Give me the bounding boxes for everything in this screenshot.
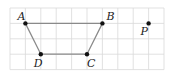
label-c: C	[87, 57, 96, 70]
point-c	[85, 52, 89, 56]
point-b	[100, 21, 104, 25]
label-a: A	[16, 10, 25, 23]
label-p: P	[140, 25, 149, 38]
geometry-diagram: A B C D P	[0, 0, 173, 75]
point-d	[39, 52, 43, 56]
label-d: D	[33, 57, 43, 70]
label-b: B	[105, 10, 114, 23]
